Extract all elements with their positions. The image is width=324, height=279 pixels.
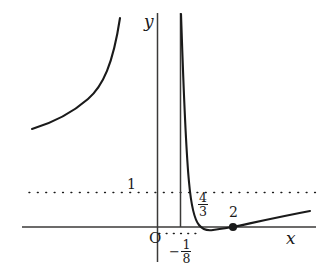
fraction-one-eighth: 1 8 [181,238,191,265]
function-graph-figure: y x O 1 4 3 2 − 1 8 [0,0,324,279]
minus-sign: − [169,245,180,258]
fraction-numerator: 4 [198,191,208,204]
y-min-label-negative-one-eighth: − 1 8 [169,238,191,265]
curve-left-branch [32,18,120,129]
x-tick-label-two: 2 [229,205,238,219]
plot-canvas [0,0,324,279]
point-marker-x-intercept [229,223,237,231]
x-axis-label: x [286,230,296,247]
fraction-denominator: 8 [181,251,191,265]
fraction-numerator: 1 [181,238,191,251]
x-tick-label-four-thirds: 4 3 [198,191,208,218]
fraction-four-thirds: 4 3 [198,191,208,218]
y-axis-label: y [144,13,154,30]
fraction-denominator: 3 [198,204,208,218]
origin-label: O [149,231,161,246]
y-tick-label-one: 1 [127,177,136,191]
